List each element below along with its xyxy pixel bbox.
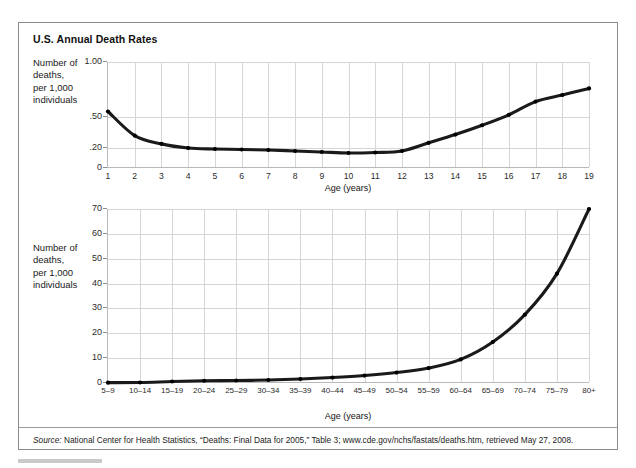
data-series-line bbox=[108, 209, 589, 382]
gridline-vertical bbox=[349, 62, 350, 167]
source-note: Source: National Center for Health Stati… bbox=[33, 435, 573, 445]
y-axis-title-line-2: deaths, bbox=[33, 254, 77, 266]
x-axis-tick-label: 10 bbox=[339, 171, 359, 181]
x-axis-tick-label: 70–74 bbox=[508, 386, 542, 395]
gridline-vertical bbox=[509, 62, 510, 167]
x-axis-tick-label: 14 bbox=[445, 171, 465, 181]
gridline-vertical bbox=[172, 209, 173, 382]
gridline-vertical bbox=[525, 209, 526, 382]
x-axis-tick-label: 65–69 bbox=[476, 386, 510, 395]
x-axis-tick-label: 30–34 bbox=[251, 386, 285, 395]
gridline-horizontal bbox=[108, 333, 589, 334]
x-axis-tick-label: 5 bbox=[205, 171, 225, 181]
y-axis-tickmark bbox=[103, 307, 107, 308]
y-axis-tickmark bbox=[103, 147, 107, 148]
y-axis-tick-label: 40 bbox=[72, 278, 102, 288]
x-axis-tick-label: 1 bbox=[98, 171, 118, 181]
x-axis-tick-label: 75–79 bbox=[540, 386, 574, 395]
x-axis-tick-label: 25–29 bbox=[219, 386, 253, 395]
y-axis-title-line-4: individuals bbox=[33, 279, 77, 291]
gridline-vertical bbox=[493, 209, 494, 382]
x-axis-tick-label: 10–14 bbox=[123, 386, 157, 395]
x-axis-tick-label: 12 bbox=[392, 171, 412, 181]
bottom-chart-plot-area: 7060504030201005–910–1415–1920–2425–2930… bbox=[107, 209, 589, 383]
y-axis-tick-label: 50 bbox=[72, 253, 102, 263]
y-axis-tickmark bbox=[103, 233, 107, 234]
gridline-vertical bbox=[429, 62, 430, 167]
x-axis-tick-label: 15 bbox=[472, 171, 492, 181]
gridline-vertical bbox=[188, 62, 189, 167]
page-title: U.S. Annual Death Rates bbox=[33, 33, 157, 45]
y-axis-title-line-3: per 1,000 bbox=[33, 267, 77, 279]
y-axis-tick-label: 30 bbox=[72, 302, 102, 312]
y-axis-tick-label: 70 bbox=[72, 203, 102, 213]
x-axis-tick-label: 3 bbox=[151, 171, 171, 181]
y-axis-tickmark bbox=[103, 332, 107, 333]
top-chart-y-axis-title: Number of deaths, per 1,000 individuals bbox=[33, 57, 77, 107]
gridline-horizontal bbox=[108, 259, 589, 260]
y-axis-tickmark bbox=[103, 167, 107, 168]
gridline-horizontal bbox=[108, 284, 589, 285]
x-axis-tick-label: 45–49 bbox=[348, 386, 382, 395]
gridline-vertical bbox=[268, 209, 269, 382]
gridline-vertical bbox=[322, 62, 323, 167]
gridline-vertical bbox=[589, 62, 590, 167]
gridline-vertical bbox=[455, 62, 456, 167]
gridline-horizontal bbox=[108, 308, 589, 309]
x-axis-tick-label: 50–54 bbox=[380, 386, 414, 395]
x-axis-tick-label: 20–24 bbox=[187, 386, 221, 395]
x-axis-tick-label: 4 bbox=[178, 171, 198, 181]
x-axis-tick-label: 6 bbox=[232, 171, 252, 181]
x-axis-tick-label: 2 bbox=[125, 171, 145, 181]
gridline-horizontal bbox=[108, 358, 589, 359]
gridline-vertical bbox=[536, 62, 537, 167]
x-axis-tick-label: 19 bbox=[579, 171, 599, 181]
data-point-marker bbox=[106, 109, 110, 113]
x-axis-tick-label: 5–9 bbox=[91, 386, 125, 395]
y-axis-tickmark bbox=[103, 258, 107, 259]
y-axis-tickmark bbox=[103, 61, 107, 62]
x-axis-tick-label: 8 bbox=[285, 171, 305, 181]
gridline-vertical bbox=[300, 209, 301, 382]
x-axis-tick-label: 11 bbox=[365, 171, 385, 181]
x-axis-tick-label: 13 bbox=[419, 171, 439, 181]
top-chart-plot-area: 1.00.50.20012345678910111213141516171819 bbox=[107, 62, 589, 168]
x-axis-tick-label: 18 bbox=[552, 171, 572, 181]
gridline-vertical bbox=[397, 209, 398, 382]
x-axis-tick-label: 7 bbox=[258, 171, 278, 181]
top-chart-x-axis-label: Age (years) bbox=[107, 183, 589, 193]
gridline-vertical bbox=[375, 62, 376, 167]
x-axis-tick-label: 35–39 bbox=[283, 386, 317, 395]
gridline-vertical bbox=[204, 209, 205, 382]
x-axis-tick-label: 16 bbox=[499, 171, 519, 181]
footer-bar bbox=[18, 459, 102, 463]
gridline-vertical bbox=[161, 62, 162, 167]
figure-frame: U.S. Annual Death Rates Number of deaths… bbox=[18, 22, 618, 450]
gridline-horizontal bbox=[108, 234, 589, 235]
gridline-vertical bbox=[332, 209, 333, 382]
gridline-horizontal bbox=[108, 209, 589, 210]
gridline-vertical bbox=[402, 62, 403, 167]
gridline-vertical bbox=[242, 62, 243, 167]
gridline-vertical bbox=[482, 62, 483, 167]
y-axis-tick-label: .20 bbox=[72, 142, 102, 152]
x-axis-tick-label: 60–64 bbox=[444, 386, 478, 395]
source-label: Source: bbox=[33, 435, 62, 445]
y-axis-title-line-3: per 1,000 bbox=[33, 82, 77, 94]
x-axis-tick-label: 55–59 bbox=[412, 386, 446, 395]
x-axis-tick-label: 40–44 bbox=[315, 386, 349, 395]
y-axis-tickmark bbox=[103, 116, 107, 117]
x-axis-tick-label: 17 bbox=[526, 171, 546, 181]
gridline-vertical bbox=[135, 62, 136, 167]
y-axis-tick-label: 20 bbox=[72, 327, 102, 337]
gridline-vertical bbox=[429, 209, 430, 382]
gridline-vertical bbox=[461, 209, 462, 382]
y-axis-title-line-2: deaths, bbox=[33, 69, 77, 81]
y-axis-tick-label: 1.00 bbox=[72, 56, 102, 66]
gridline-vertical bbox=[236, 209, 237, 382]
gridline-vertical bbox=[295, 62, 296, 167]
x-axis-tick-label: 9 bbox=[312, 171, 332, 181]
gridline-vertical bbox=[557, 209, 558, 382]
source-body: National Center for Health Statistics, “… bbox=[62, 435, 574, 445]
x-axis-tick-label: 80+ bbox=[572, 386, 606, 395]
